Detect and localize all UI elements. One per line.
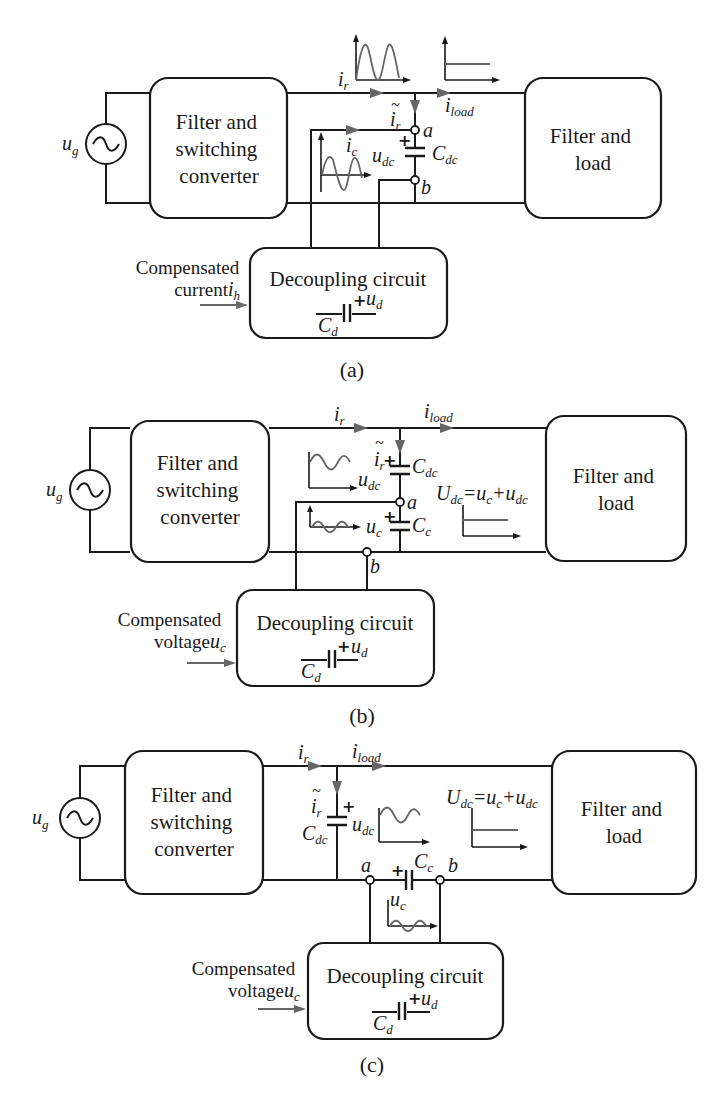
ir-label: ir <box>338 68 350 93</box>
decoupling-wires <box>370 884 440 943</box>
plus-sign: + <box>398 131 411 150</box>
tilde-accent: ~ <box>312 782 321 799</box>
node-b-label: b <box>370 555 380 577</box>
decoupling-circuit-label: Decoupling circuit <box>257 611 414 635</box>
uc-input-label: uc <box>210 630 226 655</box>
node-b-label: b <box>448 854 458 876</box>
node-a-label: a <box>361 854 371 876</box>
left-box-label: Filter and switching converter <box>151 783 238 861</box>
ir-tilde-arrow-icon <box>332 781 342 795</box>
panel-b: ug Filter and switching converter ir ilo… <box>46 400 686 728</box>
left-box-label: Filter and switching converter <box>157 451 244 529</box>
ac-source-icon <box>86 124 126 164</box>
decoupling-circuit-box <box>308 943 503 1039</box>
uc-waveform-plot <box>307 505 361 532</box>
decoupling-circuit-label: Decoupling circuit <box>270 267 427 291</box>
plus-sign: + <box>383 507 396 526</box>
node-b-label: b <box>421 176 431 198</box>
cd-plus-sign: + <box>408 989 421 1008</box>
cc-label: Cc <box>412 514 431 539</box>
filter-load-box <box>546 416 686 561</box>
udc-label: udc <box>352 813 375 838</box>
figure-canvas: ug Filter and switching converter ir ilo… <box>0 0 724 1114</box>
ac-source-icon <box>60 798 100 838</box>
ir-arrow-icon <box>354 423 368 433</box>
input-arrow-icon <box>224 659 236 667</box>
ir-tilde-arrow-icon <box>410 100 420 114</box>
decoupling-circuit-box <box>237 590 434 686</box>
node-a <box>366 876 374 884</box>
udc-waveform-plot <box>309 452 358 491</box>
cd-plus-sign: + <box>337 637 350 656</box>
decoupling-wire-a <box>296 502 396 590</box>
ir-waveform-plot <box>353 34 411 83</box>
udc-waveform-plot <box>379 808 430 846</box>
cc-label: Cc <box>414 850 433 875</box>
ir-arrow-icon <box>370 88 384 98</box>
udc-equation: Udc=uc+udc <box>446 786 538 811</box>
source-label: ug <box>32 806 49 832</box>
ac-source-icon <box>70 470 110 510</box>
decoupling-circuit-box <box>250 248 447 338</box>
plus-sign: + <box>383 451 396 470</box>
source-label: ug <box>62 132 79 158</box>
panel-a: ug Filter and switching converter ir ilo… <box>62 34 661 382</box>
node-b <box>436 876 444 884</box>
plus-sign: + <box>391 861 404 880</box>
node-a-label: a <box>423 119 433 141</box>
decoupling-circuit-label: Decoupling circuit <box>327 964 484 988</box>
uc-label: uc <box>390 888 406 913</box>
ir-label: ir <box>334 403 346 428</box>
udc-label: udc <box>358 468 381 493</box>
udc-total-waveform-plot <box>472 808 528 850</box>
iload-label: iload <box>445 94 474 119</box>
ic-waveform-plot <box>318 132 372 192</box>
uc-input-label: uc <box>284 979 300 1004</box>
udc-label: udc <box>372 144 395 169</box>
cdc-label: Cdc <box>412 455 438 480</box>
iload-waveform-plot <box>442 36 500 83</box>
decoupling-wire-a <box>311 130 411 248</box>
ir-label: ir <box>298 741 310 766</box>
cdc-label: Cdc <box>432 142 458 167</box>
input-arrow-icon <box>294 1005 306 1013</box>
filter-load-box <box>525 78 661 218</box>
caption-a: (a) <box>340 357 364 382</box>
caption-b: (b) <box>349 703 375 728</box>
cdc-capacitor-icon <box>327 817 347 825</box>
left-box-label: Filter and switching converter <box>176 110 263 188</box>
caption-c: (c) <box>360 1052 384 1077</box>
circuit-diagram: ug Filter and switching converter ir ilo… <box>0 0 724 1114</box>
ih-label: ih <box>228 278 240 303</box>
uc-label: uc <box>366 515 382 540</box>
input-arrow-icon <box>236 301 248 309</box>
node-a <box>396 498 404 506</box>
ic-label: ic <box>346 134 358 159</box>
udc-equation: Udc=uc+udc <box>436 482 528 507</box>
ir-tilde-arrow-icon <box>395 440 405 454</box>
source-wires <box>106 93 150 203</box>
node-b <box>411 176 419 184</box>
panel-c: ug Filter and switching converter ir ilo… <box>32 740 696 1077</box>
decoupling-wire-b <box>379 180 411 248</box>
iload-label: iload <box>352 740 381 765</box>
cdc-label: Cdc <box>302 822 328 847</box>
cc-capacitor-icon <box>406 870 412 890</box>
source-label: ug <box>46 478 63 504</box>
udc-total-waveform-plot <box>463 505 521 539</box>
tilde-accent: ~ <box>375 434 384 451</box>
node-a-label: a <box>407 491 417 513</box>
ir-arrow-icon <box>308 761 322 771</box>
filter-load-box <box>552 751 696 894</box>
iload-label: iload <box>424 400 453 425</box>
cd-plus-sign: + <box>353 291 366 310</box>
tilde-accent: ~ <box>391 96 400 113</box>
node-a <box>411 126 419 134</box>
